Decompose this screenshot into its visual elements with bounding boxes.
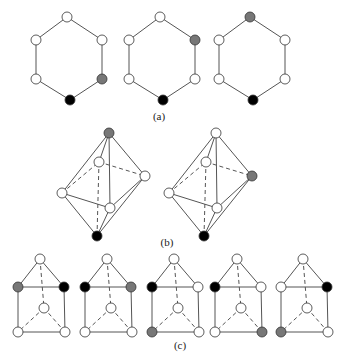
hexagon-atom <box>124 74 134 84</box>
bond-line <box>169 193 217 208</box>
coordination-diagram <box>0 0 344 364</box>
octahedron-atom-left <box>164 188 174 198</box>
prism-atom-br <box>323 327 333 337</box>
hexagon-edge <box>70 79 102 100</box>
hexagon-edge <box>219 17 250 40</box>
prism-atom-left <box>276 282 286 292</box>
octahedron-atom-left <box>57 188 67 198</box>
hexagon-atom <box>280 35 290 45</box>
bond-line <box>327 287 328 332</box>
prism-atom-top <box>102 254 112 264</box>
prism-atom-br <box>257 327 267 337</box>
prism-atom-right <box>59 282 69 292</box>
bond-line <box>206 162 252 176</box>
bond-line <box>62 193 97 236</box>
bond-line <box>169 193 204 236</box>
bond-line <box>109 133 145 176</box>
hexagon-atom <box>214 74 224 84</box>
hexagon-edge <box>163 79 195 100</box>
prism-atom-br <box>127 327 137 337</box>
prism-atom-right <box>193 282 203 292</box>
prism-atom-mid <box>236 303 246 313</box>
hexagon-edge <box>253 79 285 100</box>
bond-line <box>174 259 178 308</box>
prism-atom-left <box>80 282 90 292</box>
prism-atom-top <box>169 254 179 264</box>
caption-b: (b) <box>161 236 174 248</box>
hexagon-edge <box>129 79 163 100</box>
octahedron-atom-front <box>105 203 115 213</box>
hexagon-atom <box>155 12 165 22</box>
caption-c: (c) <box>174 339 186 351</box>
bond-line <box>198 287 199 332</box>
bond-line <box>107 259 111 308</box>
hexagon-atom <box>280 74 290 84</box>
hexagon-edge <box>67 17 102 40</box>
octahedron-atom-back <box>201 157 211 167</box>
prism-atom-mid <box>173 303 183 313</box>
octahedron-atom-top <box>211 128 221 138</box>
bond-line <box>237 259 241 308</box>
bond-line <box>216 133 252 176</box>
prism-atom-mid <box>39 303 49 313</box>
hexagon-atom <box>248 95 258 105</box>
hexagon-atom <box>97 74 107 84</box>
bond-line <box>62 193 110 208</box>
bond-line <box>40 259 64 287</box>
octahedron-atom-front <box>212 203 222 213</box>
prism-atom-top <box>298 254 308 264</box>
hexagon-atom <box>158 95 168 105</box>
octahedron-atom-right <box>140 171 150 181</box>
prism-atom-bl <box>276 327 286 337</box>
hexagon-atom <box>62 12 72 22</box>
hexagon-atom <box>65 95 75 105</box>
hexagon-atom <box>245 12 255 22</box>
bond-line <box>40 259 44 308</box>
bond-line <box>174 259 198 287</box>
bond-line <box>131 287 132 332</box>
hexagon-atom <box>124 35 134 45</box>
prism-atom-bl <box>80 327 90 337</box>
bond-line <box>64 287 65 332</box>
hexagon-atom <box>190 74 200 84</box>
prism-atom-right <box>322 282 332 292</box>
prism-atom-top <box>35 254 45 264</box>
prism-atom-right <box>126 282 136 292</box>
bond-line <box>97 162 99 236</box>
prism-atom-left <box>210 282 220 292</box>
octahedron-atom-bottom <box>199 231 209 241</box>
hexagon-atom <box>190 35 200 45</box>
bond-line <box>261 287 262 332</box>
prism-atom-br <box>60 327 70 337</box>
prism-atom-right <box>256 282 266 292</box>
octahedron-atom-right <box>247 171 257 181</box>
hexagon-edge <box>250 17 285 40</box>
bond-line <box>303 259 327 287</box>
prism-atom-bl <box>147 327 157 337</box>
hexagon-atom <box>97 35 107 45</box>
bond-line <box>110 176 145 208</box>
octahedron-atom-bottom <box>92 231 102 241</box>
prism-atom-left <box>13 282 23 292</box>
bond-line <box>237 259 261 287</box>
prism-atom-left <box>147 282 157 292</box>
bond-line <box>169 162 206 193</box>
bond-line <box>303 259 307 308</box>
bond-line <box>62 162 99 193</box>
hexagon-atom <box>31 74 41 84</box>
bond-line <box>109 133 110 208</box>
hexagon-edge <box>129 17 160 40</box>
prism-atom-mid <box>302 303 312 313</box>
prism-atom-bl <box>210 327 220 337</box>
bond-line <box>107 259 131 287</box>
hexagon-edge <box>36 17 67 40</box>
prism-atom-top <box>232 254 242 264</box>
prism-atom-br <box>194 327 204 337</box>
caption-a: (a) <box>153 110 165 122</box>
hexagon-atom <box>31 35 41 45</box>
hexagon-edge <box>160 17 195 40</box>
bond-line <box>204 162 206 236</box>
hexagon-edge <box>36 79 70 100</box>
octahedron-atom-top <box>104 128 114 138</box>
prism-atom-bl <box>13 327 23 337</box>
